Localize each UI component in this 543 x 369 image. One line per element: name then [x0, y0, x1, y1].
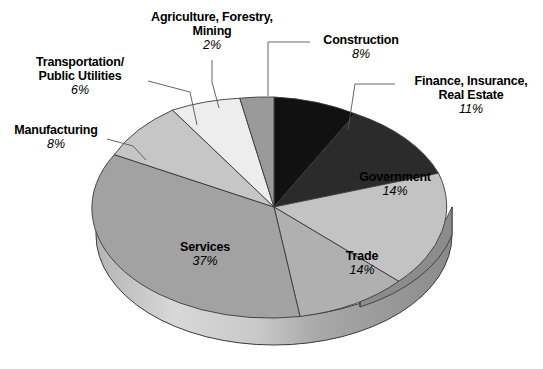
- label-transportation-name: Transportation/ Public Utilities: [10, 55, 150, 83]
- label-trade-name: Trade: [317, 249, 407, 263]
- label-construction: Construction 8%: [296, 33, 426, 61]
- label-agriculture-name: Agriculture, Forestry, Mining: [112, 10, 312, 38]
- label-construction-name: Construction: [296, 33, 426, 47]
- label-trade-percent: 14%: [317, 263, 407, 277]
- label-finance: Finance, Insurance, Real Estate 11%: [399, 74, 543, 116]
- label-government-percent: 14%: [340, 184, 450, 198]
- label-government: Government 14%: [340, 170, 450, 198]
- label-manufacturing: Manufacturing 8%: [6, 123, 106, 151]
- label-transportation: Transportation/ Public Utilities 6%: [10, 55, 150, 97]
- label-services-name: Services: [155, 240, 255, 254]
- pie-chart-figure: Agriculture, Forestry, Mining 2% Constru…: [0, 0, 543, 369]
- label-government-name: Government: [340, 170, 450, 184]
- label-construction-percent: 8%: [296, 47, 426, 61]
- label-transportation-percent: 6%: [10, 83, 150, 97]
- label-trade: Trade 14%: [317, 249, 407, 277]
- label-agriculture: Agriculture, Forestry, Mining 2%: [112, 10, 312, 52]
- label-finance-percent: 11%: [399, 102, 543, 116]
- label-manufacturing-name: Manufacturing: [6, 123, 106, 137]
- label-manufacturing-percent: 8%: [6, 137, 106, 151]
- pie-top-face: [92, 97, 447, 318]
- label-services: Services 37%: [155, 240, 255, 268]
- label-finance-name: Finance, Insurance, Real Estate: [399, 74, 543, 102]
- label-agriculture-percent: 2%: [112, 38, 312, 52]
- label-services-percent: 37%: [155, 254, 255, 268]
